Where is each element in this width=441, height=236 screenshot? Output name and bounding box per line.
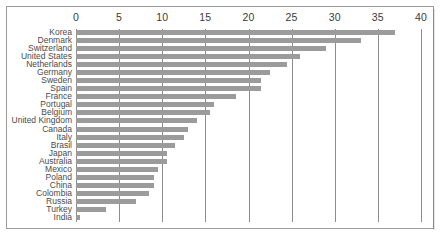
bar-row: Sweden — [76, 77, 421, 85]
bar-row: Turkey — [76, 206, 421, 214]
bar — [76, 127, 188, 132]
bar — [76, 102, 214, 107]
bar — [76, 199, 136, 204]
bar-row: Brasil — [76, 142, 421, 150]
x-tick-label-15: 15 — [199, 11, 211, 23]
bar-row: United States — [76, 53, 421, 61]
bar-row: Italy — [76, 134, 421, 142]
x-tick-label-5: 5 — [116, 11, 122, 23]
x-tick-label-0: 0 — [73, 11, 79, 23]
x-tick-label-40: 40 — [415, 11, 427, 23]
bar-row: Mexico — [76, 166, 421, 174]
bar-row: Australia — [76, 158, 421, 166]
bar-row: Poland — [76, 174, 421, 182]
bar — [76, 110, 210, 115]
bar — [76, 143, 175, 148]
bar-row: Germany — [76, 69, 421, 77]
bar — [76, 94, 236, 99]
bar — [76, 54, 300, 59]
bar-row: Switzerland — [76, 45, 421, 53]
bar-row: France — [76, 93, 421, 101]
bar-row: Colombia — [76, 190, 421, 198]
x-tick-label-10: 10 — [156, 11, 168, 23]
bar — [76, 207, 106, 212]
bar-row: Denmark — [76, 37, 421, 45]
chart-frame: 0510152025303540 KoreaDenmarkSwitzerland… — [6, 6, 434, 229]
bar-row: Japan — [76, 150, 421, 158]
bar — [76, 30, 395, 35]
x-tick-label-20: 20 — [242, 11, 254, 23]
bar-row: Portugal — [76, 101, 421, 109]
category-label: India — [54, 213, 72, 222]
bar — [76, 78, 261, 83]
bar-row: Canada — [76, 126, 421, 134]
bar — [76, 70, 270, 75]
bar-row: Netherlands — [76, 61, 421, 69]
plot-area: 0510152025303540 KoreaDenmarkSwitzerland… — [76, 29, 421, 222]
bar-row: United Kingdom — [76, 117, 421, 125]
bar-row: Russia — [76, 198, 421, 206]
plot-baseline — [76, 221, 421, 222]
bar-row: China — [76, 182, 421, 190]
bar — [76, 151, 167, 156]
gridline-40 — [421, 29, 422, 222]
bar — [76, 191, 149, 196]
bar-row: Spain — [76, 85, 421, 93]
x-tick-label-25: 25 — [286, 11, 298, 23]
bar-row: Korea — [76, 29, 421, 37]
bar — [76, 175, 154, 180]
bar — [76, 183, 154, 188]
bar — [76, 38, 361, 43]
bar — [76, 86, 261, 91]
bar — [76, 167, 158, 172]
bar-row: Belgium — [76, 109, 421, 117]
bar — [76, 159, 167, 164]
bar — [76, 135, 184, 140]
x-tick-label-30: 30 — [329, 11, 341, 23]
bar — [76, 215, 80, 220]
x-tick-label-35: 35 — [372, 11, 384, 23]
bar — [76, 46, 326, 51]
bar — [76, 118, 197, 123]
bar — [76, 62, 287, 67]
